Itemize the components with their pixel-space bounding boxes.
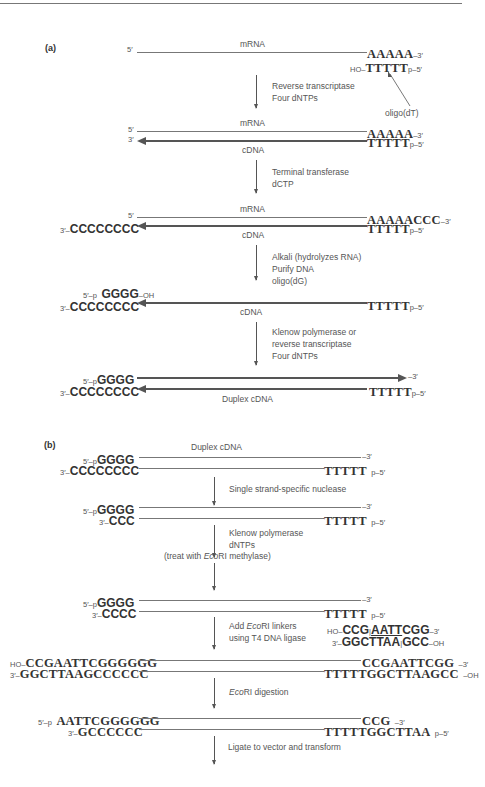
three-prime-end: 3′–	[99, 518, 109, 527]
oligo-dt-primer: TTTTTp–5′	[369, 382, 426, 400]
step-line: reverse transcriptase	[272, 338, 356, 350]
step-text: linkers	[270, 621, 297, 631]
three-prime-end: –3′	[408, 372, 418, 381]
oh-end: –OH	[463, 671, 478, 680]
step-arrow-icon	[256, 245, 257, 280]
ho-end: HO–	[350, 65, 365, 74]
poly-c-seq: CCCCCCCC	[70, 464, 139, 478]
second-strand	[137, 377, 399, 379]
step-arrow-icon	[214, 736, 215, 764]
step-line: Klenow polymerase	[229, 527, 303, 539]
p5-end: p–5′	[412, 389, 426, 398]
three-prime-end: 3′–	[60, 468, 70, 477]
enzyme-italic: Eco	[229, 687, 244, 697]
mrna-label: mRNA	[240, 204, 265, 214]
step-line: Terminal transferase	[272, 166, 349, 178]
note-text: (treat with	[164, 551, 204, 561]
step-b3-text: Add EcoRI linkers using T4 DNA ligase	[229, 620, 306, 644]
panel-b-label: (b)	[44, 440, 56, 450]
step-line: Single strand-specific nuclease	[229, 483, 346, 495]
poly-c-seq: CCCCCCCC	[70, 385, 139, 399]
oligo-dt-label: oligo(dT)	[385, 108, 419, 118]
step-a4-text: Klenow polymerase or reverse transcripta…	[272, 326, 356, 362]
step-line: Klenow polymerase or	[272, 326, 356, 338]
five-prime-end: 5′	[128, 125, 134, 134]
p5-end: p–5′	[371, 468, 385, 477]
bottom-strand	[139, 729, 324, 730]
duplex-cdna-label: Duplex cDNA	[222, 394, 273, 404]
step-line: using T4 DNA ligase	[229, 632, 306, 644]
bottom-strand-start: 3′–GGCTTAAGCCCCCC	[10, 664, 149, 682]
mrna-5prime-end: 5′	[127, 45, 133, 54]
oligo-dt-primer: TTTTTp–5′	[367, 296, 424, 314]
mrna-strand	[137, 131, 367, 132]
poly-c-seq: GCCCCCC	[78, 725, 143, 739]
oligo-dt-seq: TTTTT	[367, 222, 410, 236]
step-b4-text: EcoRI digestion	[229, 686, 289, 698]
linker-seq: GCC	[402, 635, 429, 649]
three-prime-end: 3′	[128, 135, 134, 144]
step-arrow-icon	[214, 678, 215, 708]
oligo-dt-seq: TTTTT	[369, 385, 412, 399]
three-prime-end: 3′–	[68, 729, 78, 738]
step-text: digestion	[252, 687, 288, 697]
poly-c-seq: CCCC	[102, 607, 137, 621]
top-strand	[139, 507, 361, 508]
bottom-strand-end: TTTTTGGCTTAAGCC –OH	[324, 664, 479, 682]
three-prime-end: 3′–	[60, 389, 70, 398]
ecori-linker-bottom: 3′–GGCTTAA|GCC–OH	[332, 632, 444, 650]
step-a1-text: Reverse transcriptase Four dNTPs	[272, 80, 355, 104]
step-a3-text: Alkali (hydrolyzes RNA) Purify DNA oligo…	[272, 251, 361, 287]
p5-end: p–5′	[410, 226, 424, 235]
bottom-strand	[139, 518, 324, 519]
p5-end: p–5′	[371, 518, 385, 527]
bottom-strand-start: 3′–CCCCCCCC	[60, 461, 139, 479]
step-line: Purify DNA	[272, 263, 361, 275]
enzyme-italic: Eco	[247, 621, 262, 631]
cdna-label: cDNA	[242, 145, 264, 155]
bottom-strand-start: 3′–CCC	[99, 511, 135, 529]
page-top-rule	[0, 3, 462, 4]
p5-end: 5′–p	[38, 718, 52, 727]
cdna-strand	[144, 140, 367, 142]
enzyme-suffix: RI	[218, 551, 227, 561]
top-strand	[139, 718, 361, 719]
step-line: Add EcoRI linkers	[229, 620, 306, 632]
p5-end: p–5′	[410, 303, 424, 312]
cdna-strand	[144, 302, 367, 304]
linker-poly-c-seq: GGCTTAAGCCCCCC	[20, 667, 149, 681]
bottom-strand-end: TTTTT p–5′	[324, 461, 385, 479]
three-prime-end: 3′–	[332, 639, 342, 648]
step-arrow-icon	[256, 75, 257, 108]
p5-end: 5′–p	[83, 507, 97, 516]
bottom-strand	[139, 671, 324, 672]
three-prime-end: 3′–	[60, 304, 70, 313]
poly-c-seq: CCCCCCCC	[70, 300, 139, 314]
bottom-strand-end: TTTTTGGCTTAA p–5′	[324, 722, 449, 740]
enzyme-suffix: RI	[261, 621, 270, 631]
step-line: Four dNTPs	[272, 92, 355, 104]
top-strand	[139, 457, 361, 458]
oligo-dt-pointer-arrow	[380, 70, 420, 110]
mrna-strand	[137, 217, 367, 218]
oligo-dt-seq: TTTTT	[324, 607, 367, 621]
linker-seq: GGCTTAA	[342, 635, 400, 649]
step-b1-text: Single strand-specific nuclease	[229, 483, 346, 495]
sticky-end-seq: TTTTTGGCTTAA	[324, 725, 430, 739]
step-arrow-icon	[214, 617, 215, 649]
step-a2-text: Terminal transferase dCTP	[272, 166, 349, 190]
three-prime-end: 3′–	[10, 671, 20, 680]
p5-end: p–5′	[410, 140, 424, 149]
p5-end: p–5′	[435, 729, 449, 738]
duplex-cdna-label: Duplex cDNA	[191, 442, 242, 452]
step-b2-text: Klenow polymerase dNTPs	[229, 527, 303, 551]
three-prime-end: –3′	[362, 452, 372, 461]
three-prime-end: –3′	[362, 502, 372, 511]
cdna-strand	[144, 225, 367, 227]
three-prime-end: 3′–	[60, 226, 70, 235]
mrna-label: mRNA	[240, 118, 265, 128]
oligo-dt-seq: TTTTT	[367, 299, 410, 313]
step-arrow-icon	[214, 563, 215, 590]
step-line: dCTP	[272, 178, 349, 190]
p5-end: p–5′	[371, 611, 385, 620]
